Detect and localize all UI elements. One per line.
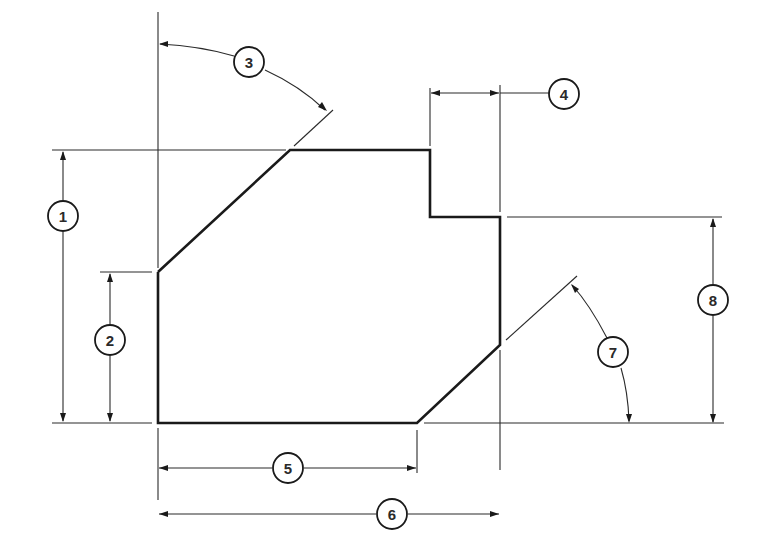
dimension-7: 7 [571, 284, 632, 423]
extension-lines [52, 12, 724, 500]
part-outline [158, 150, 500, 423]
callout-label-1: 1 [59, 208, 67, 225]
dimension-2: 2 [95, 273, 125, 422]
callout-label-4: 4 [560, 86, 569, 103]
callout-label-7: 7 [609, 344, 617, 361]
dimension-1: 1 [48, 151, 78, 422]
dimension-8: 8 [698, 218, 728, 423]
callout-label-8: 8 [709, 292, 717, 309]
dimension-drawing: 1 2 3 4 5 [0, 0, 766, 553]
dimension-6: 6 [159, 499, 499, 529]
callout-label-3: 3 [245, 54, 253, 71]
dimension-5: 5 [159, 453, 416, 483]
callout-label-6: 6 [388, 506, 396, 523]
dimension-4: 4 [431, 79, 579, 109]
dimension-3: 3 [159, 41, 327, 111]
callout-label-2: 2 [106, 332, 114, 349]
callout-label-5: 5 [284, 460, 292, 477]
